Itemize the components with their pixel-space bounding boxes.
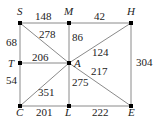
node-label-L: L: [64, 106, 71, 116]
weight-C-A: 351: [38, 86, 55, 98]
weight-A-L: 275: [72, 76, 89, 88]
node-label-T: T: [8, 57, 15, 69]
weighted-graph: 148 42 68 278 86 124 304 206 54 351 275 …: [0, 0, 159, 116]
weight-H-E: 304: [136, 56, 153, 68]
weight-H-A: 124: [92, 46, 109, 58]
node-M: [67, 21, 71, 25]
node-label-C: C: [16, 106, 24, 116]
weight-S-A: 278: [39, 28, 56, 40]
node-S: [18, 21, 22, 25]
edge-C-A: [20, 63, 69, 106]
weight-C-L: 201: [36, 106, 53, 116]
node-H: [129, 21, 133, 25]
weight-T-A: 206: [32, 51, 49, 63]
weight-T-C: 54: [6, 74, 18, 86]
node-label-E: E: [127, 106, 135, 116]
weight-M-A: 86: [72, 31, 84, 43]
node-label-H: H: [126, 5, 136, 17]
weight-L-E: 222: [92, 106, 109, 116]
node-label-M: M: [63, 5, 74, 17]
node-T: [18, 61, 22, 65]
node-label-S: S: [17, 5, 23, 17]
weight-M-H: 42: [94, 10, 105, 22]
node-label-A: A: [73, 57, 81, 69]
weight-S-M: 148: [35, 10, 52, 22]
node-A: [67, 61, 71, 65]
weight-A-E: 217: [91, 65, 108, 77]
weight-S-T: 68: [6, 36, 18, 48]
